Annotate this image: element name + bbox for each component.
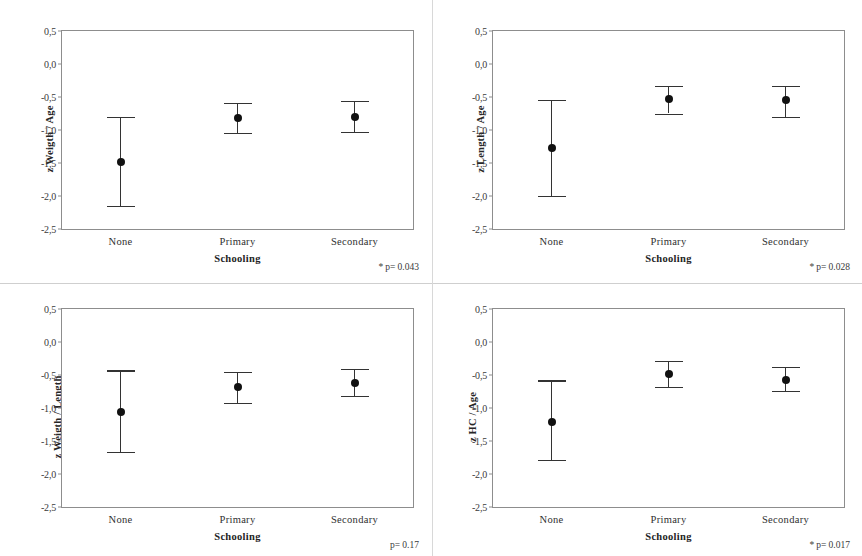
error-bar-cap-upper: [655, 86, 683, 87]
mean-marker: [548, 144, 556, 152]
panel-top-left: z Weigth / Age 0,50,0-0,5-1,0-1,5-2,0-2,…: [0, 0, 431, 278]
error-bar-cap-upper: [538, 380, 566, 381]
x-axis-tick-label: Secondary: [331, 514, 378, 525]
x-axis-tick-label: Primary: [220, 236, 256, 247]
x-axis-tick-label: None: [109, 514, 133, 525]
plot-area: 0,50,0-0,5-1,0-1,5-2,0-2,5NonePrimarySec…: [492, 30, 845, 230]
panel-bottom-left: z Weigth / Length 0,50,0-0,5-1,0-1,5-2,0…: [0, 278, 431, 556]
y-axis-tick-mark: [489, 408, 493, 409]
x-axis-tick-label: Secondary: [762, 236, 809, 247]
p-value-annotation: *p= 0.028: [809, 262, 850, 272]
plot-area: 0,50,0-0,5-1,0-1,5-2,0-2,5NonePrimarySec…: [492, 308, 845, 508]
y-axis-tick-mark: [58, 474, 62, 475]
y-axis-tick-mark: [58, 229, 62, 230]
y-axis-tick-mark: [489, 229, 493, 230]
plot-area: 0,50,0-0,5-1,0-1,5-2,0-2,5NonePrimarySec…: [61, 30, 414, 230]
y-axis-tick-mark: [58, 375, 62, 376]
x-axis-tick-label: Secondary: [331, 236, 378, 247]
mean-marker: [548, 418, 556, 426]
error-bar-cap-upper: [538, 100, 566, 101]
x-axis-title: Schooling: [61, 253, 414, 264]
error-bar-cap-lower: [772, 117, 800, 118]
error-bar-cap-upper: [224, 372, 252, 373]
error-bar-figure: z Weigth / Age 0,50,0-0,5-1,0-1,5-2,0-2,…: [0, 0, 862, 556]
significance-asterisk: *: [809, 262, 814, 272]
p-value-text: p= 0.017: [816, 540, 850, 550]
y-axis-tick-mark: [489, 130, 493, 131]
y-axis-tick-mark: [489, 375, 493, 376]
error-bar-cap-upper: [341, 369, 369, 370]
y-axis-tick-mark: [489, 474, 493, 475]
x-axis-tick-label: None: [109, 236, 133, 247]
y-axis-tick-mark: [58, 97, 62, 98]
error-bar-cap-lower: [341, 132, 369, 133]
y-axis-tick-mark: [58, 342, 62, 343]
y-axis-tick-mark: [58, 441, 62, 442]
x-axis-tick-label: Primary: [651, 236, 687, 247]
error-bar-cap-upper: [224, 103, 252, 104]
mean-marker: [117, 158, 125, 166]
error-bar-cap-lower: [655, 114, 683, 115]
y-axis-tick-mark: [489, 64, 493, 65]
x-axis-tick-label: Secondary: [762, 514, 809, 525]
x-axis-title: Schooling: [61, 531, 414, 542]
x-axis-tick-label: Primary: [220, 514, 256, 525]
x-axis-tick-label: Primary: [651, 514, 687, 525]
error-bar-cap-upper: [107, 117, 135, 118]
p-value-annotation: p= 0.17: [388, 540, 419, 550]
plot-area: 0,50,0-0,5-1,0-1,5-2,0-2,5NonePrimarySec…: [61, 308, 414, 508]
mean-marker: [234, 383, 242, 391]
panel-bottom-right: z HC / Age 0,50,0-0,5-1,0-1,5-2,0-2,5Non…: [431, 278, 862, 556]
error-bar-cap-lower: [224, 133, 252, 134]
y-axis-tick-mark: [58, 31, 62, 32]
y-axis-tick-mark: [489, 342, 493, 343]
y-axis-tick-mark: [58, 309, 62, 310]
panel-top-right: z Length / Age 0,50,0-0,5-1,0-1,5-2,0-2,…: [431, 0, 862, 278]
error-bar-cap-upper: [772, 367, 800, 368]
error-bar-cap-upper: [341, 101, 369, 102]
p-value-text: p= 0.028: [816, 262, 850, 272]
mean-marker: [351, 113, 359, 121]
x-axis-tick-label: None: [540, 236, 564, 247]
y-axis-tick-mark: [489, 31, 493, 32]
error-bar-cap-lower: [107, 206, 135, 207]
y-axis-tick-mark: [489, 441, 493, 442]
y-axis-tick-mark: [489, 97, 493, 98]
significance-asterisk: *: [378, 262, 383, 272]
significance-asterisk: *: [809, 540, 814, 550]
y-axis-tick-mark: [58, 163, 62, 164]
error-bar-cap-lower: [107, 452, 135, 453]
y-axis-tick-mark: [489, 196, 493, 197]
p-value-annotation: *p= 0.017: [809, 540, 850, 550]
x-axis-title: Schooling: [492, 531, 845, 542]
error-bar-cap-lower: [772, 391, 800, 392]
mean-marker: [117, 408, 125, 416]
y-axis-tick-mark: [58, 507, 62, 508]
x-axis-title: Schooling: [492, 253, 845, 264]
mean-marker: [351, 379, 359, 387]
y-axis-tick-mark: [489, 507, 493, 508]
mean-marker: [665, 370, 673, 378]
error-bar-cap-lower: [655, 387, 683, 388]
mean-marker: [782, 96, 790, 104]
error-bar-cap-upper: [655, 361, 683, 362]
y-axis-tick-mark: [489, 309, 493, 310]
y-axis-tick-mark: [58, 130, 62, 131]
error-bar-cap-lower: [224, 403, 252, 404]
error-bar-cap-lower: [341, 396, 369, 397]
p-value-text: p= 0.17: [390, 540, 419, 550]
error-bar-cap-lower: [538, 460, 566, 461]
y-axis-tick-mark: [58, 408, 62, 409]
error-bar-cap-lower: [538, 196, 566, 197]
error-bar-cap-upper: [107, 370, 135, 371]
p-value-annotation: *p= 0.043: [378, 262, 419, 272]
mean-marker: [234, 114, 242, 122]
mean-marker: [665, 95, 673, 103]
error-bar-cap-upper: [772, 86, 800, 87]
y-axis-tick-mark: [58, 196, 62, 197]
y-axis-tick-mark: [489, 163, 493, 164]
mean-marker: [782, 376, 790, 384]
y-axis-tick-mark: [58, 64, 62, 65]
p-value-text: p= 0.043: [385, 262, 419, 272]
x-axis-tick-label: None: [540, 514, 564, 525]
